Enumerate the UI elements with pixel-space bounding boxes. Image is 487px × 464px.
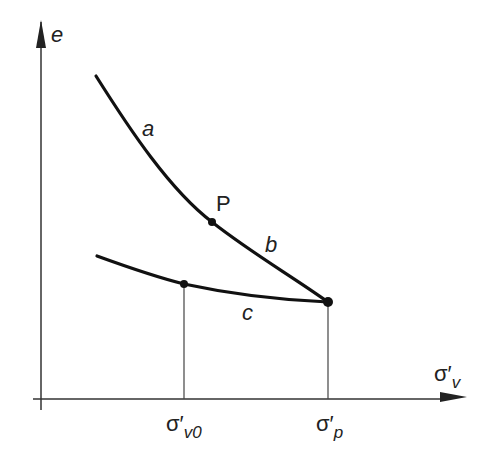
compression-diagram: e σ′v a b c P σ′v0 σ′p	[0, 0, 487, 464]
tick-label-sv0: σ′v0	[166, 411, 202, 442]
tick-label-sp: σ′p	[316, 411, 343, 442]
point-label-P: P	[216, 191, 231, 216]
curve-label-b: b	[265, 232, 277, 257]
x-axis-arrow-icon	[440, 392, 467, 402]
y-axis-arrow-icon	[36, 20, 46, 48]
point-sv0	[180, 280, 188, 288]
x-axis-label: σ′v	[434, 361, 462, 392]
point-sp	[323, 297, 333, 307]
curve-label-c: c	[242, 300, 253, 325]
y-axis-label: e	[51, 22, 63, 47]
point-P	[208, 218, 216, 226]
curve-label-a: a	[142, 116, 154, 141]
